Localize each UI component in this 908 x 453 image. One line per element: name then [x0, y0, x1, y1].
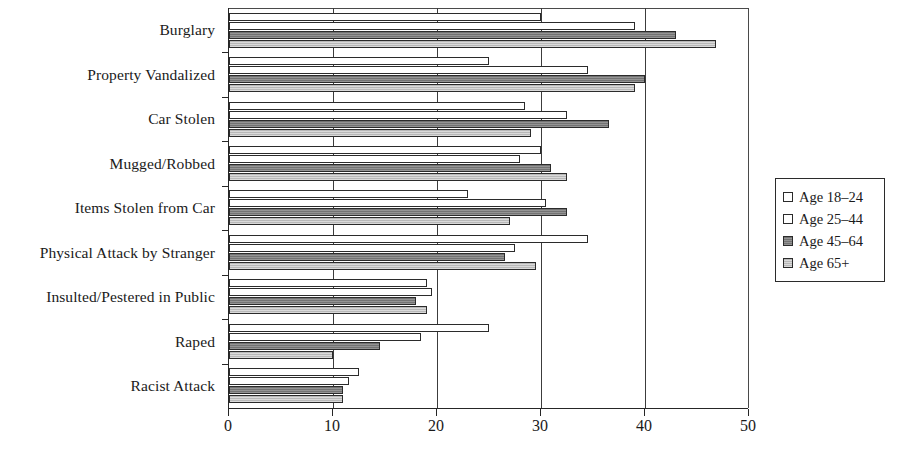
legend-label: Age 65+ — [799, 255, 849, 272]
bar — [229, 288, 432, 296]
x-axis-tick — [644, 409, 645, 416]
bar — [229, 333, 421, 341]
x-axis-tick — [332, 409, 333, 416]
x-axis-tick-label: 20 — [428, 418, 444, 434]
legend-item[interactable]: Age 18–24 — [783, 186, 878, 208]
legend-item[interactable]: Age 25–44 — [783, 208, 878, 230]
bar — [229, 129, 531, 137]
y-axis-tick — [222, 275, 229, 276]
bar — [229, 244, 515, 252]
bar — [229, 155, 520, 163]
legend-label: Age 18–24 — [799, 189, 863, 206]
chart-legend: Age 18–24Age 25–44Age 45–64Age 65+ — [775, 178, 885, 282]
bar — [229, 57, 489, 65]
bar-group — [229, 275, 749, 319]
bar — [229, 368, 359, 376]
bar-group — [229, 230, 749, 274]
bar — [229, 351, 333, 359]
y-axis-tick — [222, 186, 229, 187]
bar — [229, 190, 468, 198]
y-axis-tick — [222, 319, 229, 320]
bar — [229, 22, 635, 30]
x-axis-tick — [748, 409, 749, 416]
bar — [229, 102, 525, 110]
bar — [229, 31, 676, 39]
bar — [229, 199, 546, 207]
y-axis-category-labels: BurglaryProperty VandalizedCar StolenMug… — [0, 8, 224, 408]
bar — [229, 342, 380, 350]
category-label: Raped — [0, 319, 224, 363]
legend-swatch-icon — [783, 214, 793, 224]
bar — [229, 111, 567, 119]
category-label: Property Vandalized — [0, 52, 224, 96]
legend-label: Age 25–44 — [799, 211, 863, 228]
bar-group — [229, 364, 749, 408]
bar-group — [229, 97, 749, 141]
category-label: Physical Attack by Stranger — [0, 230, 224, 274]
bar — [229, 297, 416, 305]
bar — [229, 324, 489, 332]
x-axis-tick-label: 50 — [740, 418, 756, 434]
bar-group — [229, 141, 749, 185]
legend-swatch-icon — [783, 258, 793, 268]
category-label: Burglary — [0, 8, 224, 52]
bar — [229, 235, 588, 243]
bar — [229, 377, 349, 385]
bar — [229, 173, 567, 181]
legend-item[interactable]: Age 45–64 — [783, 230, 878, 252]
category-label: Car Stolen — [0, 97, 224, 141]
bar — [229, 84, 635, 92]
bars-layer — [229, 8, 749, 408]
bar — [229, 164, 551, 172]
x-axis-tick — [228, 409, 229, 416]
legend-label: Age 45–64 — [799, 233, 863, 250]
legend-swatch-icon — [783, 236, 793, 246]
legend-swatch-icon — [783, 192, 793, 202]
x-axis: 01020304050 — [228, 408, 748, 409]
y-axis-tick — [222, 230, 229, 231]
y-axis-tick — [222, 97, 229, 98]
bar — [229, 66, 588, 74]
y-axis-tick — [222, 52, 229, 53]
bar — [229, 386, 343, 394]
x-axis-tick — [540, 409, 541, 416]
bar-chart: BurglaryProperty VandalizedCar StolenMug… — [0, 0, 908, 453]
bar — [229, 146, 541, 154]
bar — [229, 13, 541, 21]
bar-group — [229, 319, 749, 363]
y-axis-tick — [222, 141, 229, 142]
x-axis-tick-label: 10 — [324, 418, 340, 434]
category-label: Mugged/Robbed — [0, 141, 224, 185]
y-axis-tick — [222, 364, 229, 365]
x-axis-tick — [436, 409, 437, 416]
bar — [229, 217, 510, 225]
bar-group — [229, 8, 749, 52]
x-axis-tick-label: 40 — [636, 418, 652, 434]
bar-group — [229, 186, 749, 230]
bar — [229, 75, 645, 83]
bar-group — [229, 52, 749, 96]
bar — [229, 40, 716, 48]
bar — [229, 395, 343, 403]
bar — [229, 262, 536, 270]
category-label: Insulted/Pestered in Public — [0, 275, 224, 319]
legend-item[interactable]: Age 65+ — [783, 252, 878, 274]
bar — [229, 208, 567, 216]
category-label: Items Stolen from Car — [0, 186, 224, 230]
x-axis-tick-label: 30 — [532, 418, 548, 434]
bar — [229, 253, 505, 261]
category-label: Racist Attack — [0, 364, 224, 408]
x-axis-tick-label: 0 — [224, 418, 232, 434]
bar — [229, 120, 609, 128]
bar — [229, 306, 427, 314]
bar — [229, 279, 427, 287]
plot-area — [228, 8, 749, 408]
